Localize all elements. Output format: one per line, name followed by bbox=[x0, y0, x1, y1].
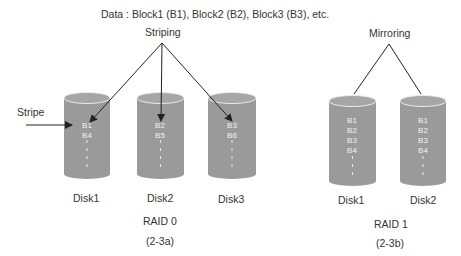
block-label: B1 bbox=[77, 121, 97, 131]
raid0-title: RAID 0 bbox=[143, 215, 177, 227]
striping-label: Striping bbox=[145, 26, 181, 38]
raid1-disk1-name: Disk1 bbox=[338, 194, 364, 206]
raid1-disk2-name: Disk2 bbox=[410, 194, 436, 206]
block-label: B2 bbox=[413, 126, 433, 136]
block-label: B4 bbox=[77, 131, 97, 141]
data-legend: Data : Block1 (B1), Block2 (B2), Block3 … bbox=[101, 8, 329, 20]
block-label: B5 bbox=[150, 131, 170, 141]
block-label: B2 bbox=[150, 121, 170, 131]
raid0-disk1-name: Disk1 bbox=[73, 192, 99, 204]
block-label: B6 bbox=[222, 131, 242, 141]
block-label: B3 bbox=[342, 136, 362, 146]
raid0-disk3-name: Disk3 bbox=[218, 193, 244, 205]
block-label: B1 bbox=[413, 116, 433, 126]
raid0-disk1-blocks: B1 B4 bbox=[77, 121, 97, 141]
block-label: B2 bbox=[342, 126, 362, 136]
block-label: B4 bbox=[342, 146, 362, 156]
mirroring-lines bbox=[354, 44, 421, 94]
block-label: B1 bbox=[342, 116, 362, 126]
raid0-caption: (2-3a) bbox=[146, 235, 174, 247]
raid0-disk3-blocks: B3 B6 bbox=[222, 121, 242, 141]
raid0-disk2-name: Disk2 bbox=[147, 192, 173, 204]
raid1-caption: (2-3b) bbox=[376, 237, 404, 249]
mirroring-label: Mirroring bbox=[369, 27, 410, 39]
raid1-disk1-blocks: B1 B2 B3 B4 bbox=[342, 116, 362, 156]
raid0-disk2-blocks: B2 B5 bbox=[150, 121, 170, 141]
raid1-disk2-blocks: B1 B2 B3 B4 bbox=[413, 116, 433, 156]
block-label: B3 bbox=[222, 121, 242, 131]
block-label: B3 bbox=[413, 136, 433, 146]
stripe-label: Stripe bbox=[17, 106, 44, 118]
raid1-title: RAID 1 bbox=[374, 218, 408, 230]
block-label: B4 bbox=[413, 146, 433, 156]
